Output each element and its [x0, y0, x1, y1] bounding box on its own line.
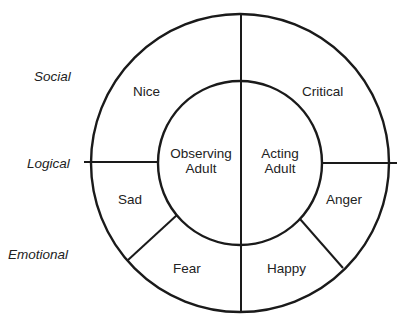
observing-adult-label-line1: Observing	[170, 146, 232, 161]
segment-critical-label: Critical	[302, 84, 343, 99]
social-label: Social	[34, 69, 72, 84]
segment-sad-label: Sad	[118, 192, 142, 207]
acting-adult-label-line1: Acting	[261, 146, 299, 161]
observing-adult-label-line2: Adult	[186, 161, 217, 176]
segment-fear-label: Fear	[173, 261, 201, 276]
logical-label: Logical	[27, 156, 71, 171]
acting-adult-label-line2: Adult	[265, 161, 296, 176]
segment-anger-label: Anger	[326, 192, 363, 207]
ego-state-wheel-diagram: Social Logical Emotional Nice Critical S…	[0, 0, 405, 320]
emotional-label: Emotional	[8, 247, 69, 262]
lower-right-diagonal-divider	[300, 219, 343, 268]
segment-nice-label: Nice	[133, 84, 160, 99]
segment-happy-label: Happy	[267, 261, 306, 276]
lower-left-diagonal-divider	[128, 215, 177, 260]
